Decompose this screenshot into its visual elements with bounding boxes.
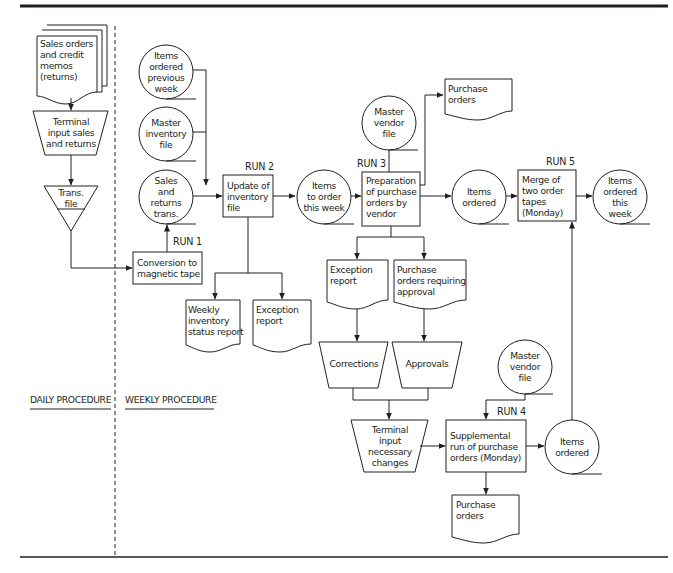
corrections-label: Corrections bbox=[322, 358, 386, 369]
flowchart-canvas bbox=[0, 0, 673, 573]
terminal-input-sales-label: Terminal input sales and returns bbox=[38, 116, 104, 149]
run-3-label: RUN 3 bbox=[357, 158, 386, 169]
weekly-procedure-label: WEEKLY PROCEDURE bbox=[125, 394, 217, 405]
exception-report-1-label: Exception report bbox=[256, 304, 312, 326]
run-5-label: RUN 5 bbox=[546, 156, 575, 167]
po-requiring-approval-label: Purchase orders requiring approval bbox=[397, 264, 469, 297]
exception-report-2-label: Exception report bbox=[330, 264, 388, 286]
items-ordered-2-label: Items ordered bbox=[546, 436, 598, 458]
daily-procedure-label: DAILY PROCEDURE bbox=[30, 394, 111, 405]
master-vendor-file-2-label: Master vendor file bbox=[499, 350, 551, 383]
items-ordered-this-week-label: Items ordered this week bbox=[594, 175, 646, 219]
preparation-label: Preparation of purchase orders by vendor bbox=[366, 175, 422, 219]
purchase-orders-1-label: Purchase orders bbox=[448, 83, 508, 105]
items-to-order-label: Items to order this week bbox=[297, 180, 351, 213]
purchase-orders-2-label: Purchase orders bbox=[456, 499, 516, 521]
items-ordered-prev-week-label: Items ordered previous week bbox=[140, 50, 192, 94]
master-inventory-file-label: Master inventory file bbox=[140, 117, 192, 150]
supplemental-run-label: Supplemental run of purchase orders (Mon… bbox=[450, 430, 530, 463]
run-1-label: RUN 1 bbox=[173, 236, 202, 247]
sales-orders-label: Sales orders and credit memos (returns) bbox=[40, 38, 98, 82]
master-vendor-file-1-label: Master vendor file bbox=[363, 106, 415, 139]
flowchart: Sales orders and credit memos (returns) … bbox=[0, 0, 673, 573]
merge-label: Merge of two order tapes (Monday) bbox=[522, 174, 578, 218]
trans-file-label: Trans. file bbox=[46, 187, 96, 209]
run-2-label: RUN 2 bbox=[245, 161, 274, 172]
update-inventory-label: Update of inventory file bbox=[227, 180, 273, 213]
run-4-label: RUN 4 bbox=[497, 406, 526, 417]
weekly-inventory-report-label: Weekly inventory status report bbox=[188, 304, 244, 337]
conversion-label: Conversion to magnetic tape bbox=[137, 257, 203, 279]
terminal-input-changes-label: Terminal input necessary changes bbox=[356, 424, 424, 468]
items-ordered-1-label: Items ordered bbox=[453, 186, 505, 208]
approvals-label: Approvals bbox=[395, 358, 459, 369]
sales-returns-trans-label: Sales and returns trans. bbox=[140, 175, 192, 219]
